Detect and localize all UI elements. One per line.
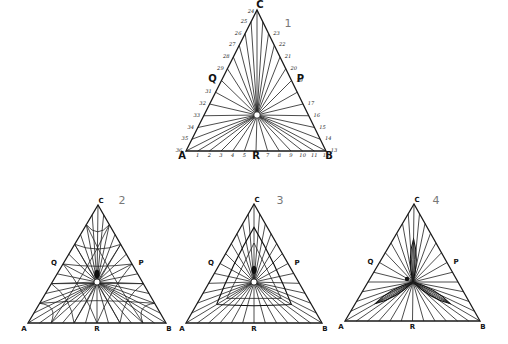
midpoint-label-q: Q <box>208 259 214 267</box>
edge-tick-left: 27 <box>228 41 236 47</box>
panel-number: 3 <box>277 194 284 207</box>
vertex-label-c: C <box>414 196 419 204</box>
ray-line <box>227 69 257 115</box>
ray-line <box>97 282 166 323</box>
triangle-diagram-3: ABCRPQ3 <box>179 194 327 333</box>
edge-tick-bottom: 8 <box>278 152 282 158</box>
edge-tick-left: 32 <box>199 100 206 106</box>
edge-tick-right: 22 <box>278 41 286 47</box>
midpoint-label-p: P <box>453 258 458 266</box>
edge-tick-right: 15 <box>319 124 326 130</box>
ray-line <box>257 81 292 116</box>
edge-tick-bottom: 1 <box>196 152 199 158</box>
web-chord <box>40 303 53 323</box>
edge-tick-right: 19 <box>296 77 303 83</box>
edge-tick-left: 28 <box>222 53 230 59</box>
vertex-label-a: A <box>179 325 185 333</box>
edge-tick-left: 35 <box>182 135 189 141</box>
midpoint-label-q: Q <box>368 258 374 266</box>
web-chord <box>141 303 155 323</box>
ray-line <box>251 22 257 115</box>
ray-line <box>413 272 453 282</box>
edge-tick-right: 13 <box>331 147 338 153</box>
ray-line <box>28 282 97 323</box>
vertex-label-b: B <box>322 325 327 333</box>
center-blot <box>252 266 256 274</box>
edge-tick-right: 21 <box>284 53 292 59</box>
ray-line <box>221 115 257 151</box>
edge-tick-bottom: 3 <box>219 152 223 158</box>
edge-tick-right: 23 <box>272 30 280 36</box>
edge-tick-left: 29 <box>216 65 224 71</box>
edge-tick-left: 33 <box>193 112 200 118</box>
edge-tick-right: 17 <box>308 100 315 106</box>
ray-line <box>413 263 447 283</box>
vertex-label-b: B <box>480 323 485 331</box>
midpoint-label-q: Q <box>51 259 57 267</box>
ray-line <box>209 282 254 323</box>
ray-line <box>222 81 258 116</box>
edge-tick-bottom: 9 <box>289 152 293 158</box>
edge-tick-left: 34 <box>188 124 195 130</box>
edge-tick-left: 36 <box>176 147 183 153</box>
midpoint-label-r: R <box>94 325 100 333</box>
edge-tick-bottom: 5 <box>243 152 246 158</box>
midpoint-label-q: Q <box>208 73 217 84</box>
triangle-outline <box>186 10 326 151</box>
panel-number: 1 <box>285 17 292 30</box>
ray-line <box>216 92 257 115</box>
center-dot <box>405 277 409 281</box>
edge-tick-right: 16 <box>313 112 320 118</box>
triangle-diagram-4: ABCRPQ4 <box>338 194 485 331</box>
ray-line <box>257 92 297 115</box>
edge-tick-right: 20 <box>289 65 297 71</box>
triangle-diagrams-figure: ABCRPQ1123457891011121314151617192021222… <box>0 0 508 344</box>
edge-tick-bottom: 4 <box>230 152 234 158</box>
ray-line <box>257 115 303 151</box>
edge-tick-bottom: 12 <box>323 152 330 158</box>
ray-line <box>257 22 263 115</box>
edge-tick-bottom: 10 <box>299 152 306 158</box>
ray-line <box>254 282 299 323</box>
ray-line <box>257 115 309 116</box>
ray-line <box>233 115 257 151</box>
vertex-label-a: A <box>338 323 344 331</box>
panel-number: 2 <box>119 194 126 207</box>
edge-tick-apex: 24 <box>247 8 255 14</box>
midpoint-label-p: P <box>138 259 143 267</box>
triangle-diagram-2: ABCRPQ2 <box>21 194 171 333</box>
ray-line <box>257 57 280 115</box>
ray-line <box>204 115 257 116</box>
midpoint-label-p: P <box>294 259 299 267</box>
ray-line <box>254 282 322 323</box>
edge-tick-right: 14 <box>325 135 332 141</box>
ray-line <box>231 282 254 323</box>
ray-line <box>257 69 286 115</box>
midpoint-label-r: R <box>252 150 260 161</box>
ray-line <box>413 282 435 321</box>
ray-line <box>186 282 254 323</box>
ray-line <box>254 273 294 282</box>
ray-line <box>413 282 480 321</box>
vertex-label-c: C <box>256 0 263 10</box>
center-point <box>254 112 260 118</box>
ray-line <box>254 282 277 323</box>
ray-line <box>413 282 414 321</box>
edge-tick-bottom: 2 <box>207 152 211 158</box>
ray-line <box>256 115 257 151</box>
edge-tick-left: 25 <box>240 18 248 24</box>
edge-tick-bottom: 11 <box>311 152 318 158</box>
center-point <box>94 279 100 285</box>
vertex-label-c: C <box>254 196 259 204</box>
ray-line <box>198 115 257 151</box>
edge-tick-left: 26 <box>234 30 242 36</box>
panel-number: 4 <box>433 194 440 207</box>
ray-line <box>214 273 254 282</box>
midpoint-label-r: R <box>410 323 416 331</box>
center-point <box>251 279 257 285</box>
vertex-label-c: C <box>98 197 103 205</box>
ray-line <box>57 274 97 282</box>
midpoint-label-r: R <box>251 325 257 333</box>
vertex-label-a: A <box>21 325 27 333</box>
edge-tick-bottom: 7 <box>266 152 270 158</box>
